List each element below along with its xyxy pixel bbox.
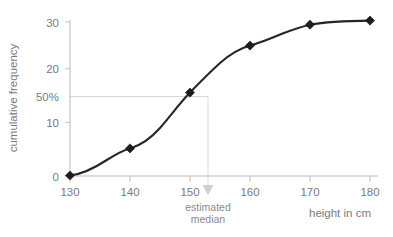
data-point-180 bbox=[365, 16, 374, 25]
x-tick-label-170: 170 bbox=[300, 186, 319, 198]
x-tick-label-150: 150 bbox=[180, 186, 199, 198]
data-point-160 bbox=[245, 41, 254, 50]
y-tick-label-50-percent: 50% bbox=[36, 91, 59, 103]
y-tick-label-20: 20 bbox=[46, 63, 59, 75]
x-tick-marks bbox=[70, 176, 370, 182]
y-tick-label-10: 10 bbox=[46, 117, 59, 129]
median-arrow-icon bbox=[203, 185, 214, 195]
x-tick-label-160: 160 bbox=[240, 186, 259, 198]
data-point-140 bbox=[125, 144, 134, 153]
y-tick-marks bbox=[65, 22, 70, 176]
x-tick-label-130: 130 bbox=[60, 186, 79, 198]
estimated-median-label-line1: estimated bbox=[185, 201, 231, 213]
data-point-130 bbox=[65, 171, 74, 180]
cumulative-frequency-line bbox=[70, 21, 370, 176]
chart-canvas: 30 20 50% 10 0 130 140 150 160 170 180 e… bbox=[0, 0, 393, 237]
data-point-170 bbox=[305, 20, 314, 29]
y-tick-label-30: 30 bbox=[46, 17, 59, 29]
y-axis-title: cumulative frequency bbox=[7, 43, 19, 152]
cumulative-frequency-chart: 30 20 50% 10 0 130 140 150 160 170 180 e… bbox=[0, 0, 393, 237]
x-tick-label-180: 180 bbox=[360, 186, 379, 198]
y-tick-label-0: 0 bbox=[53, 171, 59, 183]
x-tick-label-140: 140 bbox=[120, 186, 139, 198]
data-point-markers bbox=[65, 16, 374, 180]
x-axis-title: height in cm bbox=[309, 207, 371, 219]
estimated-median-label-line2: median bbox=[191, 213, 226, 225]
